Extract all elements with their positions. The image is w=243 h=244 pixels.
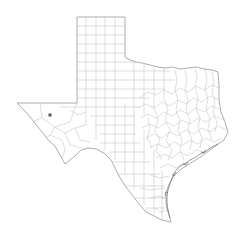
- location-marker: [49, 114, 52, 117]
- texas-county-map: [0, 0, 243, 244]
